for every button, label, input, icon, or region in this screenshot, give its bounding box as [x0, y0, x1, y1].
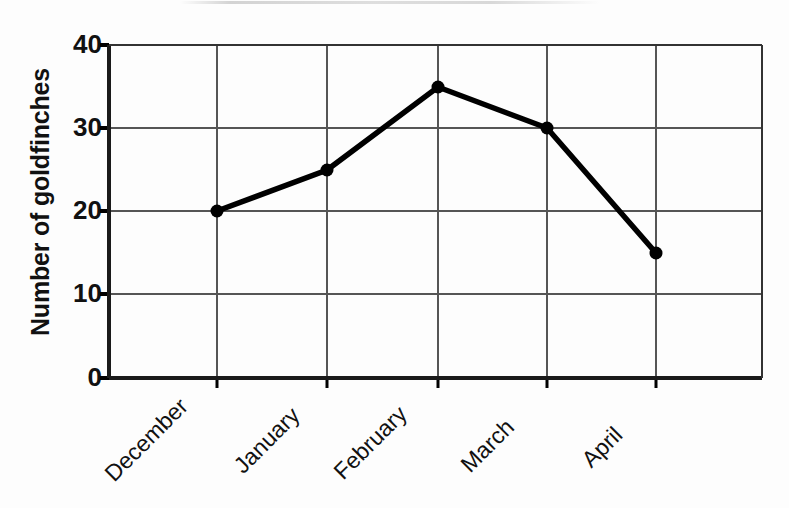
- data-point-markers: [211, 81, 663, 260]
- data-point-april: [650, 247, 663, 260]
- horizontal-gridlines: [109, 128, 762, 294]
- data-line: [217, 87, 656, 253]
- data-point-march: [541, 122, 554, 135]
- data-point-february: [432, 81, 445, 94]
- plot-area: [0, 0, 789, 508]
- data-point-december: [211, 205, 224, 218]
- data-point-january: [321, 164, 334, 177]
- chart-figure: Number of goldfinches 40 30 20 10 0 Dece…: [0, 0, 789, 508]
